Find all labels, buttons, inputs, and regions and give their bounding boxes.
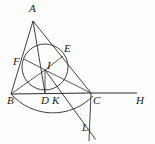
point-label-k: K: [52, 95, 59, 106]
segment-bc: [11, 93, 91, 94]
point-label-f: F: [13, 56, 20, 67]
geometry-figure: A E F I B D K C H L: [0, 0, 155, 144]
point-label-c: C: [93, 95, 100, 106]
point-label-e: E: [64, 43, 71, 54]
point-label-b: B: [7, 95, 14, 106]
point-label-i: I: [47, 60, 51, 71]
segment-ic: [45, 70, 91, 93]
geometry-canvas: [0, 0, 155, 144]
segment-if: [24, 59, 45, 70]
segment-ad: [33, 21, 45, 93]
point-label-d: D: [41, 95, 49, 106]
point-label-h: H: [136, 95, 144, 106]
point-label-a: A: [29, 3, 36, 14]
segment-ib: [11, 70, 45, 94]
point-label-l: L: [82, 122, 88, 133]
segment-cl: [89, 93, 91, 141]
